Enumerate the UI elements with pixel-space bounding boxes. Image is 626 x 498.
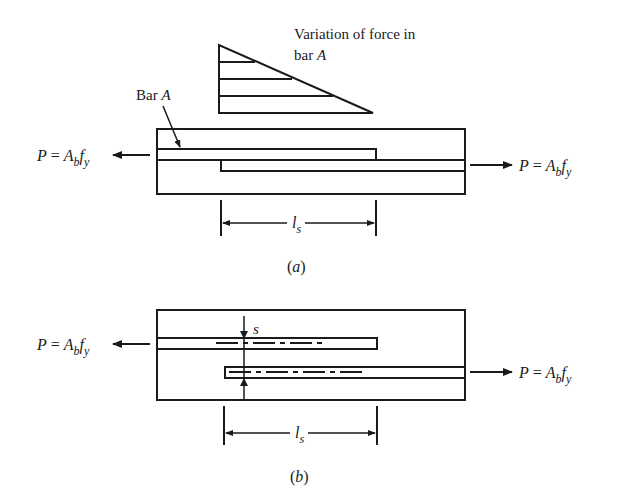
panel-a: Variation of force in bar A Bar A P = Ab… [36,26,572,276]
force-variation-label-line2: bar A [294,47,327,63]
right-force-label-b: P = Abfy [518,364,572,386]
right-force-label-a: P = Abfy [518,157,572,179]
splice-length-label-b: ls [295,424,304,446]
panel-b: s P = Abfy P = Abfy ls (b) [36,310,572,486]
bar-a-label: Bar A [136,87,171,103]
left-force-label-b: P = Abfy [36,336,90,358]
caption-b: (b) [290,468,309,486]
left-force-label-a: P = Abfy [36,147,90,169]
bar-b [221,160,465,171]
bar-a [157,149,376,160]
force-variation-label: Variation of force in [294,26,416,42]
concrete-member-a [157,129,465,194]
caption-a: (a) [287,258,306,276]
bar-a-leader-arrow [163,106,180,147]
lap-splice-figure: Variation of force in bar A Bar A P = Ab… [0,0,626,498]
splice-length-label-a: ls [292,214,301,236]
spacing-label: s [253,321,259,337]
spacing-dimension [240,316,248,400]
concrete-member-b [157,310,465,400]
